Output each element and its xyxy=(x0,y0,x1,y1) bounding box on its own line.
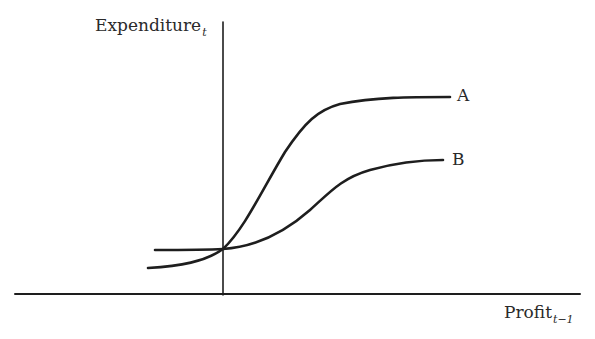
curve-a xyxy=(148,97,450,268)
curve-b-label: B xyxy=(452,151,465,168)
curve-b xyxy=(155,160,443,250)
y-axis-label-text: Expenditure xyxy=(95,15,201,35)
x-axis-label-text: Profit xyxy=(504,302,552,322)
diagram-svg xyxy=(0,0,595,339)
x-axis-label: Profitt−1 xyxy=(504,304,574,321)
x-axis-subscript: t−1 xyxy=(553,313,574,326)
curve-a-label: A xyxy=(457,87,469,104)
y-axis-subscript: t xyxy=(202,26,206,39)
y-axis-label: Expendituret xyxy=(95,17,207,34)
diagram-canvas: Expendituret Profitt−1 A B xyxy=(0,0,595,339)
